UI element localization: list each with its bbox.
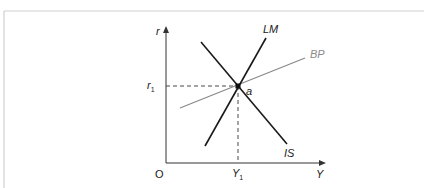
y-axis-arrow-icon bbox=[163, 26, 169, 33]
diagram-canvas: r Y O LM IS BP a r1 Y1 bbox=[0, 0, 424, 188]
lm-label: LM bbox=[263, 23, 279, 35]
x-axis-arrow-icon bbox=[319, 160, 326, 166]
is-label: IS bbox=[284, 147, 295, 159]
lm-curve bbox=[205, 38, 266, 146]
y-axis-label: r bbox=[156, 25, 161, 37]
r1-label-subscript: 1 bbox=[151, 86, 155, 93]
r1-label: r1 bbox=[147, 79, 155, 93]
equilibrium-point bbox=[236, 84, 241, 89]
x-axis-label: Y bbox=[316, 168, 324, 180]
equilibrium-label: a bbox=[246, 85, 252, 97]
bp-curve bbox=[180, 58, 305, 108]
y1-label-subscript: 1 bbox=[239, 174, 243, 181]
origin-label: O bbox=[155, 168, 164, 180]
bp-label: BP bbox=[310, 48, 325, 60]
y1-label: Y1 bbox=[232, 167, 243, 181]
